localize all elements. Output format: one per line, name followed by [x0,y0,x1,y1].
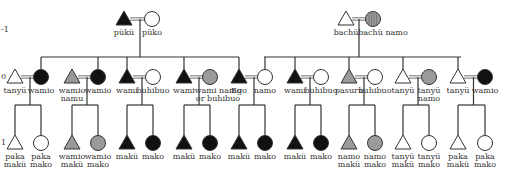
female-circle-icon [34,70,49,85]
kin-term-label: wamiomakü [59,153,86,169]
male-triangle-icon [7,69,23,83]
kin-term-label: tanyümakü [392,153,415,169]
kin-term-label: makü [116,153,138,161]
male-triangle-icon [176,135,192,149]
female-circle-icon [422,70,437,85]
female-circle-icon [203,70,218,85]
kin-term-label: mako [254,153,276,161]
male-triangle-icon [338,11,354,25]
female-circle-icon [258,70,273,85]
female-circle-icon [203,136,218,151]
generation-label: -1 [1,25,9,34]
kin-term-label: tanyümako [418,153,441,169]
kin-term-label: mako [142,153,164,161]
female-circle-icon [146,70,161,85]
generation-label: 0 [1,72,6,81]
kin-term-label: mako [199,153,221,161]
male-triangle-icon [231,69,247,83]
kin-term-label: namomakü [338,153,360,169]
male-triangle-icon [287,69,303,83]
male-triangle-icon [341,69,357,83]
female-circle-icon [422,136,437,151]
female-circle-icon [34,136,49,151]
female-circle-icon [478,136,493,151]
female-circle-icon [146,136,161,151]
kin-term-label: namo [254,87,276,95]
kin-term-label: bachü [334,29,359,37]
kin-term-label: wamio [85,87,112,95]
kin-term-label: pakamako [30,153,52,169]
kin-term-label: pakamakü [447,153,469,169]
kin-term-label: bachü namo [358,29,408,37]
male-triangle-icon [64,135,80,149]
kin-term-label: pükü [114,29,134,37]
female-circle-icon [91,70,106,85]
female-circle-icon [366,12,381,27]
kin-term-label: tanyünamo [418,87,441,103]
male-triangle-icon [341,135,357,149]
male-triangle-icon [64,69,80,83]
generation-label: 1 [1,138,6,147]
female-circle-icon [145,12,160,27]
kin-term-label: pakamakü [4,153,26,169]
female-circle-icon [368,136,383,151]
kin-term-label: wami [284,87,306,95]
kin-term-label: tanyü [447,87,470,95]
female-circle-icon [478,70,493,85]
female-circle-icon [368,70,383,85]
kin-term-label: pakamako [474,153,496,169]
male-triangle-icon [176,69,192,83]
male-triangle-icon [395,135,411,149]
kin-term-label: püko [142,29,162,37]
male-triangle-icon [287,135,303,149]
kin-term-label: tanyü [392,87,415,95]
kin-term-label: buhibuo [358,87,391,95]
kin-term-label: makü [284,153,306,161]
kin-term-label: buhibuo [136,87,169,95]
female-circle-icon [91,136,106,151]
kin-term-label: wamio [472,87,499,95]
kin-term-label: namomako [364,153,386,169]
male-triangle-icon [119,135,135,149]
male-triangle-icon [450,135,466,149]
male-triangle-icon [7,135,23,149]
male-triangle-icon [450,69,466,83]
kin-term-label: buhibuo [304,87,337,95]
kin-term-label: wami [173,87,195,95]
male-triangle-icon [119,69,135,83]
kin-term-label: wamionamu [59,87,86,103]
female-circle-icon [314,136,329,151]
kin-term-label: tanyü [4,87,27,95]
kin-term-label: wami [116,87,138,95]
male-triangle-icon [116,11,132,25]
male-triangle-icon [395,69,411,83]
male-triangle-icon [231,135,247,149]
female-circle-icon [258,136,273,151]
kinship-diagram: -101püküpükobachübachü namotanyüwamiopak… [0,0,514,183]
kin-term-label: makü [228,153,250,161]
female-circle-icon [314,70,329,85]
kin-term-label: wamiomako [85,153,112,169]
kin-term-label: makü [173,153,195,161]
kin-term-label: Ego [231,87,247,95]
kin-term-label: mako [310,153,332,161]
kin-term-label: wamio [28,87,55,95]
